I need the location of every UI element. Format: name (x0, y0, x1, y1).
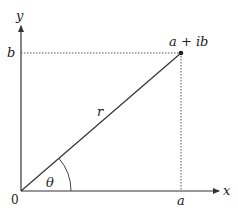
point-label: a + ib (169, 34, 208, 49)
complex-point (179, 51, 184, 56)
angle-arc (59, 158, 71, 191)
modulus-vector (21, 53, 181, 191)
y-axis-label: y (15, 8, 24, 23)
origin-label: 0 (11, 193, 19, 207)
a-label: a (177, 193, 185, 208)
b-label: b (7, 45, 15, 60)
angle-label: θ (46, 175, 54, 190)
x-axis-label: x (223, 183, 231, 198)
argand-diagram: y x 0 b a a + ib r θ (0, 0, 238, 214)
modulus-label: r (97, 104, 104, 119)
